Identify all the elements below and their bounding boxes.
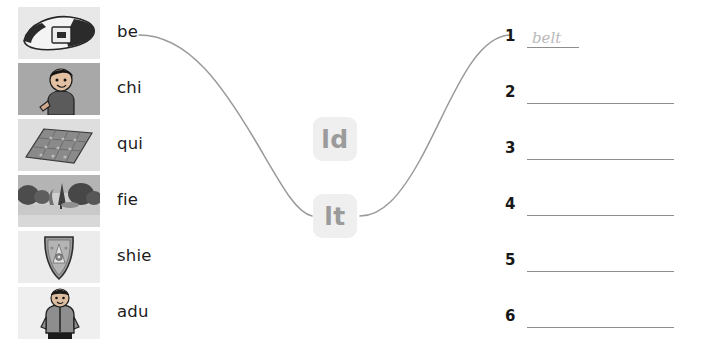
- answer-value: [527, 214, 532, 216]
- answer-number: 1: [505, 29, 527, 48]
- answer-number: 5: [505, 253, 527, 272]
- ending-tile-label: ld: [321, 125, 348, 154]
- answer-number: 4: [505, 197, 527, 216]
- answer-value: [527, 158, 532, 160]
- answer-value: [527, 270, 532, 272]
- answer-rule: [527, 159, 674, 160]
- ending-tile-lt[interactable]: lt: [313, 194, 357, 238]
- answer-number: 2: [505, 85, 527, 104]
- adult-picture: [18, 287, 100, 339]
- answer-value: [527, 102, 532, 104]
- field-picture: [18, 175, 100, 227]
- answer-rule: [527, 271, 674, 272]
- answer-number: 6: [505, 309, 527, 328]
- connector-lt-to-answer-1: [360, 35, 510, 216]
- answer-input-4[interactable]: [527, 194, 714, 216]
- answer-row[interactable]: 3: [505, 134, 714, 160]
- word-bank-row[interactable]: shie: [0, 229, 230, 284]
- answer-rule: [527, 327, 674, 328]
- answer-row[interactable]: 5: [505, 246, 714, 272]
- syllable-label: be: [117, 24, 138, 41]
- answer-value: [527, 326, 532, 328]
- answer-input-5[interactable]: [527, 250, 714, 272]
- ending-tile-label: lt: [324, 202, 346, 231]
- word-bank-row[interactable]: fie: [0, 173, 230, 228]
- word-bank-row[interactable]: be: [0, 5, 230, 60]
- word-bank-row[interactable]: chi: [0, 61, 230, 116]
- answer-input-3[interactable]: [527, 138, 714, 160]
- answer-row[interactable]: 4: [505, 190, 714, 216]
- syllable-label: adu: [117, 304, 149, 321]
- answer-number: 3: [505, 141, 527, 160]
- answer-row[interactable]: 6: [505, 302, 714, 328]
- shield-picture: [18, 231, 100, 283]
- answer-list: 1 belt 2 3 4 5 6: [505, 0, 714, 345]
- word-bank: be chi: [0, 0, 230, 345]
- syllable-label: shie: [117, 248, 152, 265]
- answer-value: belt: [527, 31, 561, 48]
- answer-input-1[interactable]: belt: [527, 26, 714, 48]
- quilt-picture: [18, 119, 100, 171]
- belt-picture: [18, 7, 100, 59]
- syllable-label: chi: [117, 80, 142, 97]
- answer-rule: [527, 103, 674, 104]
- answer-row[interactable]: 1 belt: [505, 22, 714, 48]
- word-bank-row[interactable]: adu: [0, 285, 230, 340]
- answer-row[interactable]: 2: [505, 78, 714, 104]
- syllable-label: fie: [117, 192, 138, 209]
- answer-input-2[interactable]: [527, 82, 714, 104]
- syllable-label: qui: [117, 136, 143, 153]
- answer-input-6[interactable]: [527, 306, 714, 328]
- answer-rule: [527, 215, 674, 216]
- word-bank-row[interactable]: qui: [0, 117, 230, 172]
- child-picture: [18, 63, 100, 115]
- ending-tile-ld[interactable]: ld: [313, 117, 357, 161]
